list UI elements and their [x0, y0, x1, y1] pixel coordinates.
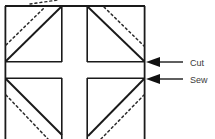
- canvas-background: [0, 0, 215, 139]
- diagram-canvas: Cut Sew: [0, 0, 215, 139]
- quilt-block-diagram: Cut Sew: [0, 0, 215, 139]
- cut-label: Cut: [190, 58, 205, 68]
- sew-label: Sew: [190, 75, 208, 85]
